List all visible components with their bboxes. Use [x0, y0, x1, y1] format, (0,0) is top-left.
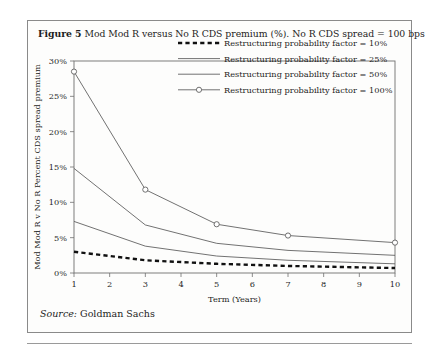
- source-value: Goldman Sachs: [80, 308, 155, 319]
- x-tick-label: 8: [321, 279, 326, 289]
- legend-label-0: Restructuring probability factor = 10%: [224, 38, 387, 48]
- x-tick-label: 4: [178, 279, 183, 289]
- series-marker: [392, 240, 397, 245]
- legend-label-1: Restructuring probability factor = 25%: [224, 54, 387, 64]
- series-line-3: [74, 72, 395, 243]
- source-label: Source:: [40, 308, 77, 319]
- y-tick-label: 30%: [49, 56, 67, 66]
- series-marker: [71, 69, 76, 74]
- y-axis-title: Mod Mod R v No R Percent CDS spread prem…: [32, 64, 42, 270]
- x-tick-label: 2: [107, 279, 112, 289]
- series-line-0: [74, 252, 395, 268]
- page-divider-rule: [27, 343, 412, 344]
- x-axis-title: Term (Years): [208, 294, 261, 304]
- x-tick-label: 9: [357, 279, 362, 289]
- series-line-2: [74, 168, 395, 255]
- y-tick-label: 20%: [49, 127, 67, 137]
- line-chart-svg: 0%5%10%15%20%25%30%12345678910 Restructu…: [28, 21, 413, 334]
- y-tick-label: 10%: [49, 197, 67, 207]
- source-note: Source: Goldman Sachs: [40, 308, 155, 319]
- y-tick-label: 0%: [54, 268, 67, 278]
- y-tick-label: 15%: [49, 162, 67, 172]
- x-tick-label: 6: [250, 279, 255, 289]
- series-marker: [285, 233, 290, 238]
- series-marker: [214, 222, 219, 227]
- y-tick-label: 5%: [54, 233, 67, 243]
- legend-label-2: Restructuring probability factor = 50%: [224, 69, 387, 79]
- series-marker: [143, 187, 148, 192]
- chart-series-group: [71, 69, 397, 268]
- chart-legend: Restructuring probability factor = 10%Re…: [178, 38, 393, 95]
- x-tick-label: 5: [214, 279, 219, 289]
- figure-container: Figure 5 Mod Mod R versus No R CDS premi…: [27, 20, 412, 333]
- x-tick-label: 10: [390, 279, 400, 289]
- x-tick-label: 7: [285, 279, 290, 289]
- x-tick-label: 1: [71, 279, 76, 289]
- legend-marker-3: [196, 87, 201, 92]
- y-tick-label: 25%: [49, 91, 67, 101]
- legend-label-3: Restructuring probability factor = 100%: [224, 85, 393, 95]
- chart-plot-area: 0%5%10%15%20%25%30%12345678910 Restructu…: [28, 21, 413, 334]
- x-tick-label: 3: [143, 279, 148, 289]
